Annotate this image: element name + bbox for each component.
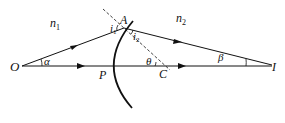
n2-label: n2 <box>176 11 186 27</box>
arrow-icon <box>178 63 186 69</box>
point-P-label: P <box>98 68 107 82</box>
point-A-label: A <box>119 13 128 27</box>
arrow-icon <box>70 45 78 50</box>
beta-label: β <box>217 51 224 63</box>
alpha-arc <box>41 59 42 66</box>
point-I-label: I <box>271 60 277 74</box>
alpha-label: α <box>44 55 50 67</box>
point-C-label: C <box>159 67 168 81</box>
theta-arc <box>155 62 156 66</box>
arrow-icon <box>173 39 182 44</box>
arrow-icon <box>77 63 85 69</box>
point-O-label: O <box>10 59 20 74</box>
n1-label: n1 <box>50 16 60 32</box>
i1-label: i1 <box>110 22 117 36</box>
refraction-diagram: n1 n2 O A P C I α β θ i1 i2 <box>0 0 285 123</box>
theta-label: θ <box>146 55 152 67</box>
